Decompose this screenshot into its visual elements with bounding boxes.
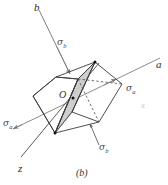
origin-point-label: O — [59, 90, 66, 100]
sigma-a-left-label: σa — [3, 119, 12, 130]
sigma-b-leader-line — [90, 124, 99, 145]
sigma-subscript: b — [105, 147, 108, 154]
figure-caption: (b) — [76, 168, 88, 178]
sigma-subscript: b — [63, 42, 66, 49]
sigma-subscript: a — [132, 88, 135, 95]
axis-label-z: z — [18, 163, 22, 174]
figure-drawing-canvas — [0, 0, 168, 185]
sigma-b-bottom-label: σb — [99, 143, 108, 154]
axis-label-a: a — [156, 59, 162, 70]
axis-label-b: b — [34, 2, 40, 13]
sigma-b-top-label: σb — [57, 38, 66, 49]
axis-label-x: x — [141, 101, 145, 110]
stress-element-figure: b a z x O σb σa σa σb (b) — [0, 0, 168, 185]
sigma-a-right-label: σa — [126, 84, 135, 95]
sigma-subscript: a — [9, 123, 12, 130]
axis-a-line — [13, 58, 160, 129]
